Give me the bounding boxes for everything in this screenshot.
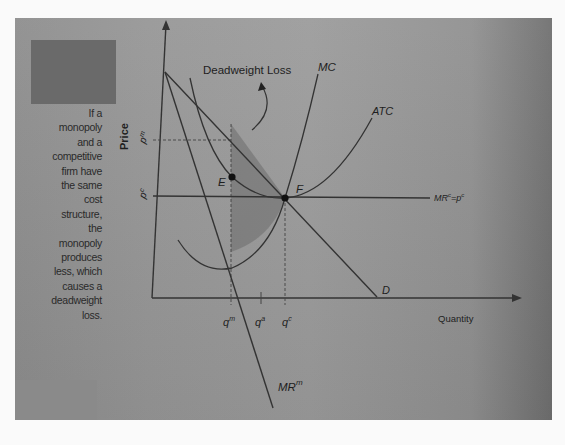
arrowhead-icon (258, 82, 266, 91)
mrm-label: MRm (278, 378, 303, 393)
dwl-pointer-arrow (252, 86, 267, 130)
point-f-label: F (296, 183, 304, 195)
y-axis-arrow-icon (162, 20, 170, 30)
monopoly-dwl-chart: Deadweight Loss MC ATC E F D MRc=pc MRm … (0, 0, 565, 445)
svg-text:qc: qc (282, 315, 292, 328)
mrm-line (165, 72, 273, 408)
svg-text:qa: qa (255, 315, 265, 328)
dwl-label: Deadweight Loss (203, 64, 291, 76)
demand-label: D (382, 284, 390, 296)
x-axis-arrow-icon (512, 294, 522, 302)
svg-text:pm: pm (135, 130, 151, 146)
qa-tick-label: qa (255, 315, 265, 328)
svg-text:MRc=pc: MRc=pc (434, 192, 464, 203)
svg-text:qm: qm (223, 315, 235, 328)
qc-tick-label: qc (282, 315, 292, 328)
y-axis (152, 24, 166, 298)
qm-tick-label: qm (223, 315, 235, 328)
mc-label: MC (318, 61, 337, 73)
price-axis-label: Price (118, 123, 130, 150)
point-f (281, 194, 288, 201)
point-e (228, 173, 235, 180)
point-e-label: E (218, 176, 226, 188)
deadweight-loss-region (231, 124, 285, 252)
pm-tick-label: pm (135, 130, 151, 146)
atc-label: ATC (371, 105, 393, 117)
svg-text:pc: pc (135, 187, 150, 201)
quantity-axis-label: Quantity (438, 313, 474, 324)
svg-text:MRm: MRm (278, 378, 303, 393)
mrc-label: MRc=pc (434, 192, 464, 203)
pc-tick-label: pc (135, 187, 150, 201)
